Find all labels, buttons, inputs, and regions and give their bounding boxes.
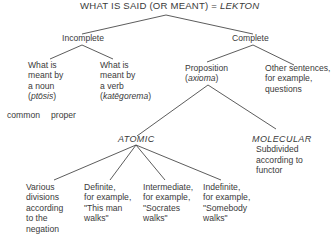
node-other-sentences: Other sentences, for example, questions (265, 63, 330, 94)
term-axioma: axioma (188, 73, 216, 83)
leaf-definite: Definite, for example, "This man walks" (84, 182, 131, 224)
title-term: LEKTON (220, 0, 259, 11)
lekton-classification-diagram: WHAT IS SAID (OR MEANT) = LEKTON Incompl… (0, 0, 332, 241)
node-molecular: MOLECULAR Subdivided according to functo… (252, 134, 312, 176)
noun-kind-proper: proper (51, 110, 76, 120)
node-complete: Complete (232, 33, 269, 43)
node-noun-meaning: What is meant by a noun (ptōsis) (28, 60, 63, 102)
diagram-title: WHAT IS SAID (OR MEANT) = LEKTON (80, 1, 259, 11)
node-verb-meaning: What is meant by a verb (katēgorema) (100, 60, 151, 102)
leaf-negation-divisions: Various divisions according to the negat… (26, 182, 63, 234)
title-main: WHAT IS SAID (OR MEANT) = (80, 0, 220, 11)
node-atomic: ATOMIC (118, 134, 155, 144)
node-proposition: Proposition (axioma) (185, 63, 228, 84)
term-kategorema: katēgorema (103, 91, 148, 101)
leaf-indefinite: Indefinite, for example, "Somebody walks… (203, 182, 250, 224)
term-ptosis: ptōsis (31, 91, 53, 101)
noun-kind-common: common (7, 110, 40, 120)
leaf-intermediate: Intermediate, for example, "Socrates wal… (143, 182, 193, 224)
node-incomplete: Incomplete (62, 33, 104, 43)
